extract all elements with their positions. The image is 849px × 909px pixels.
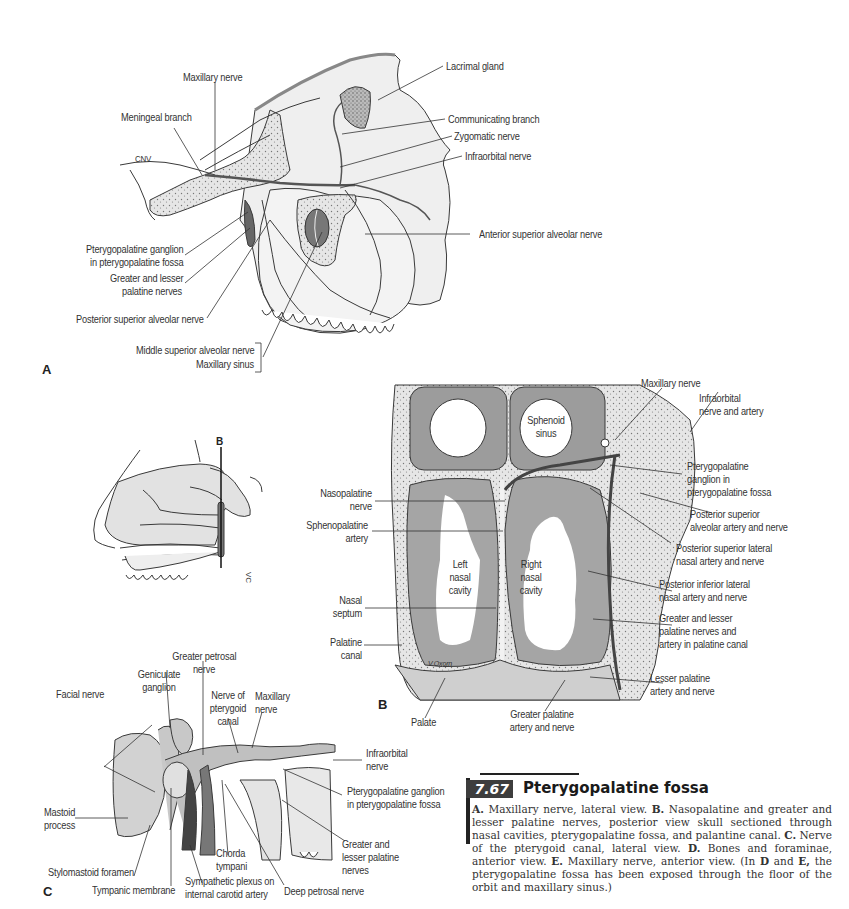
label-lesser-palatine-1: Lesser palatine (650, 672, 710, 685)
label-left-nasal-3: cavity (442, 584, 477, 597)
label-sympathetic-2: internal carotid artery (185, 888, 268, 901)
caption-ref-e: E, (798, 855, 810, 867)
label-mastoid-1: Mastoid (44, 806, 75, 819)
label-lesser-palatine-2: artery and nerve (650, 685, 714, 698)
label-post-sup-lateral-2: nasal artery and nerve (676, 555, 764, 568)
label-c-ptg-ganglion-2: in pterygopalatine fossa (347, 798, 440, 811)
label-c-infraorbital-1: Infraorbital (366, 747, 408, 760)
label-deep-petrosal-nerve: Deep petrosal nerve (284, 885, 364, 898)
label-sphenoid-2: sinus (523, 427, 569, 440)
label-maxillary-sinus: Maxillary sinus (196, 358, 254, 371)
label-c-infraorbital-2: nerve (366, 760, 388, 773)
label-middle-superior-alveolar-nerve: Middle superior alveolar nerve (136, 344, 254, 357)
label-c-greater-lesser-3: nerves (342, 864, 369, 877)
label-right-nasal-3: cavity (513, 584, 548, 597)
label-b-infraorbital-2: nerve and artery (699, 405, 763, 418)
label-meningeal-branch: Meningeal branch (121, 111, 192, 124)
caption-and: and (769, 855, 798, 867)
artist-signature: V.Oxorn (428, 658, 452, 671)
label-palate: Palate (411, 716, 436, 729)
label-post-inf-lateral-1: Posterior inferior lateral (659, 578, 750, 591)
label-greater-lesser-palatine-2: palatine nerves (122, 285, 182, 298)
label-c-maxillary-1: Maxillary (255, 690, 290, 703)
label-right-nasal-2: nasal (513, 571, 548, 584)
label-sphenopalatine-2: artery (305, 532, 368, 545)
label-chorda-2: tympani (216, 860, 247, 873)
label-nasal-septum-1: Nasal (327, 594, 362, 607)
label-post-sup-alveolar-1: Posterior superior (690, 508, 760, 521)
label-sphenoid-1: Sphenoid (523, 414, 569, 427)
label-c-maxillary-2: nerve (255, 703, 277, 716)
caption-part-c-letter: C. (784, 829, 796, 841)
label-gl-palatine-1: Greater and lesser (659, 612, 732, 625)
label-b-ptg-ganglion-1: Pterygopalatine (687, 460, 749, 473)
label-sympathetic-1: Sympathetic plexus on (185, 875, 274, 888)
label-nerve-pterygoid-1: Nerve of (208, 689, 248, 702)
label-posterior-superior-alveolar-nerve: Posterior superior alveolar nerve (76, 313, 204, 326)
label-anterior-superior-alveolar-nerve: Anterior superior alveolar nerve (479, 228, 602, 241)
caption-part-e-letter: E. (551, 855, 563, 867)
panel-letter-c: C (43, 884, 52, 899)
label-mastoid-2: process (44, 819, 75, 832)
label-maxillary-nerve: Maxillary nerve (183, 71, 242, 84)
anatomy-illustrations (0, 0, 849, 909)
panel-letter-a: A (42, 362, 51, 377)
caption-part-a-letter: A. (472, 803, 484, 815)
label-palatine-canal-2: canal (327, 649, 362, 662)
label-stylomastoid-foramen: Stylomastoid foramen (48, 866, 134, 879)
label-right-nasal-1: Right (513, 558, 548, 571)
label-nerve-pterygoid-3: canal (208, 715, 248, 728)
label-nasal-septum-2: septum (327, 607, 362, 620)
caption-ref-d: D (760, 855, 769, 867)
label-b-ptg-ganglion-2: ganglion in (687, 473, 730, 486)
label-sphenopalatine-1: Sphenopalatine (305, 519, 368, 532)
label-b-maxillary-nerve: Maxillary nerve (641, 377, 700, 390)
label-zygomatic-nerve: Zygomatic nerve (454, 130, 520, 143)
label-gl-palatine-3: artery in palatine canal (659, 638, 748, 651)
figure-number-badge: 7.67 (466, 780, 513, 798)
label-greater-petrosal-1: Greater petrosal (172, 650, 235, 663)
label-geniculate-2: ganglion (134, 681, 183, 694)
label-b-infraorbital-1: Infraorbital (699, 392, 741, 405)
label-left-nasal-2: nasal (442, 571, 477, 584)
label-cnv: CNV (135, 153, 151, 166)
label-pterygopalatine-ganglion-1: Pterygopalatine ganglion (86, 243, 184, 256)
label-c-ptg-ganglion-1: Pterygopalatine ganglion (347, 785, 445, 798)
artist-signature-inset: VC (242, 572, 255, 583)
caption-part-d-letter: D. (688, 842, 700, 854)
label-infraorbital-nerve: Infraorbital nerve (465, 150, 531, 163)
label-nasopalatine-2: nerve (319, 500, 372, 513)
label-facial-nerve: Facial nerve (56, 688, 104, 701)
caption-part-b-letter: B. (652, 803, 665, 815)
label-post-sup-lateral-1: Posterior superior lateral (676, 542, 772, 555)
label-gl-palatine-2: palatine nerves and (659, 625, 736, 638)
label-c-greater-lesser-2: lesser palatine (342, 851, 399, 864)
label-geniculate-1: Geniculate (134, 668, 183, 681)
label-greater-palatine-1: Greater palatine (505, 708, 579, 721)
label-greater-lesser-palatine-1: Greater and lesser (110, 272, 183, 285)
label-nerve-pterygoid-2: pterygoid (208, 702, 248, 715)
section-marker-b: B (216, 436, 223, 447)
label-c-greater-lesser-1: Greater and (342, 838, 389, 851)
figure-caption-text: A. Maxillary nerve, lateral view. B. Nas… (472, 803, 832, 894)
label-chorda-1: Chorda (216, 847, 245, 860)
panel-letter-b: B (378, 697, 387, 712)
label-nasopalatine-1: Nasopalatine (319, 487, 372, 500)
figure-title: Pterygopalatine fossa (523, 779, 709, 797)
caption-top-rule (480, 773, 579, 775)
label-pterygopalatine-ganglion-2: in pterygopalatine fossa (90, 256, 183, 269)
label-communicating-branch: Communicating branch (448, 113, 539, 126)
label-lacrimal-gland: Lacrimal gland (446, 60, 504, 73)
label-post-sup-alveolar-2: alveolar artery and nerve (690, 521, 788, 534)
label-palatine-canal-1: Palatine (327, 636, 362, 649)
label-post-inf-lateral-2: nasal artery and nerve (659, 591, 747, 604)
caption-part-a-text: Maxillary nerve, lateral view. (484, 803, 652, 815)
label-b-ptg-ganglion-3: pterygopalatine fossa (687, 486, 771, 499)
label-tympanic-membrane: Tympanic membrane (92, 884, 175, 897)
caption-part-e-text: Maxillary nerve, anterior view. (In (563, 855, 760, 867)
label-left-nasal-1: Left (442, 558, 477, 571)
label-greater-palatine-2: artery and nerve (505, 721, 579, 734)
panel-b-inset-illustration (94, 440, 262, 580)
